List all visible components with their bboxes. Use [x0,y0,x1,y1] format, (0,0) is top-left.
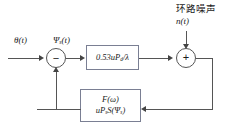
feedback-block: F(ω) uPsS(Ψs) [80,89,141,122]
error-signal-arg: (t) [62,35,71,45]
noise-signal-label: n(t) [176,16,216,26]
feedback-left-wire [37,109,81,110]
feedback-return-wire [146,109,213,110]
control-block-diagram: θ(t) − Ψs(t) 0.53uPd/λ 环路噪声 n(t) + F(ω) [0,0,235,137]
input-signal-label: θ(t) [14,36,27,45]
forward-gain-suffix: /λ [123,52,129,62]
feedback-line2-mid: S(Ψ [107,105,120,115]
noise-caption: 环路噪声 [176,4,216,15]
forward-gain-expression: 0.53uPd/λ [96,53,129,63]
input-wire [8,58,40,59]
noise-annotation: 环路噪声 n(t) [176,4,216,26]
summing-junction-output: + [176,48,196,68]
feedback-junction-arrowhead [53,67,59,72]
feedback-block-line1: F(ω) [102,95,119,104]
feedback-block-line2: uPsS(Ψs) [96,106,125,116]
forward-gain-block: 0.53uPd/λ [86,45,139,70]
summing-junction-error-sign: − [47,53,65,64]
error-signal-label: Ψs(t) [53,36,70,46]
forward-gain-prefix: 0.53uP [96,52,120,62]
noise-wire [186,31,187,45]
feedback-block-input-arrowhead [141,106,146,112]
forward-output-arrowhead [168,55,173,61]
forward-output-wire [139,58,171,59]
summing-junction-error: − [46,48,66,68]
output-wire [196,58,213,59]
summing-junction-output-sign: + [177,52,195,63]
feedback-line2-suffix: ) [122,105,125,115]
error-wire-arrowhead [80,55,85,61]
feedback-right-vertical-wire [212,58,213,110]
feedback-left-vertical-wire [56,72,57,110]
error-wire [66,58,81,59]
input-wire-arrowhead [39,55,44,61]
feedback-line2-prefix: uP [96,105,105,115]
